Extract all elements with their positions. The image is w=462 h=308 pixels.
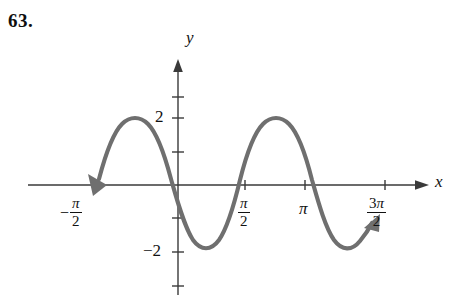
- fraction-pi-over-two: π2: [238, 196, 250, 230]
- x-axis-arrowhead: [415, 180, 429, 190]
- x-tick-label-pi: π: [299, 199, 308, 219]
- y-axis: [172, 59, 184, 295]
- fraction-numerator: π: [70, 196, 82, 213]
- fraction-denominator: 2: [238, 213, 250, 230]
- sine-curve-group: [88, 118, 380, 248]
- y-tick-label-neg-two: −2: [143, 241, 161, 261]
- fraction-coefficient: 3: [369, 196, 377, 212]
- graph-figure: 63.: [0, 0, 462, 308]
- x-tick-label-half-pi: π2: [238, 196, 250, 230]
- coordinate-plane-svg: [0, 0, 462, 308]
- fraction-pi-over-two: π2: [70, 196, 82, 230]
- sine-curve: [99, 118, 372, 248]
- minus-sign: −: [60, 204, 70, 222]
- y-axis-arrowhead: [173, 59, 183, 72]
- x-tick-label-three-half-pi: 3π2: [367, 196, 386, 230]
- fraction-three-pi-over-two: 3π2: [367, 196, 386, 230]
- x-axis-label: x: [435, 172, 443, 192]
- fraction-denominator: 2: [70, 213, 82, 230]
- x-axis: [28, 180, 429, 190]
- fraction-numerator: 3π: [367, 196, 386, 213]
- y-tick-label-two: 2: [155, 107, 164, 127]
- y-axis-label: y: [186, 28, 194, 48]
- x-tick-label-neg-half-pi: −π2: [60, 196, 82, 230]
- fraction-numerator: π: [238, 196, 250, 213]
- fraction-pi-symbol: π: [377, 195, 385, 211]
- fraction-denominator: 2: [367, 213, 386, 230]
